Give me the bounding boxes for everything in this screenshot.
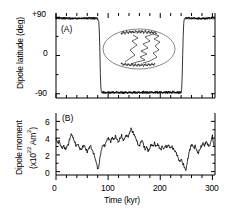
plot-canvas — [0, 0, 231, 220]
panel-a-plot — [56, 13, 215, 98]
panel-b-plot — [56, 113, 215, 180]
figure-root: Dipole latitude (deg) +90 0 -90 (A) Dipo… — [0, 0, 231, 220]
vgp-path-inset — [103, 29, 175, 69]
